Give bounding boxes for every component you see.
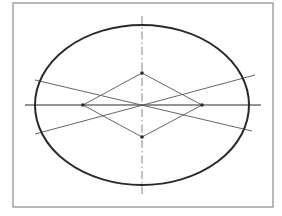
center-point-dot bbox=[140, 135, 144, 139]
diagram-canvas bbox=[0, 0, 282, 216]
center-point-dot bbox=[81, 103, 85, 107]
center-point-dot bbox=[140, 71, 144, 75]
center-point-dot bbox=[200, 103, 204, 107]
oval-construction-diagram bbox=[0, 0, 282, 216]
